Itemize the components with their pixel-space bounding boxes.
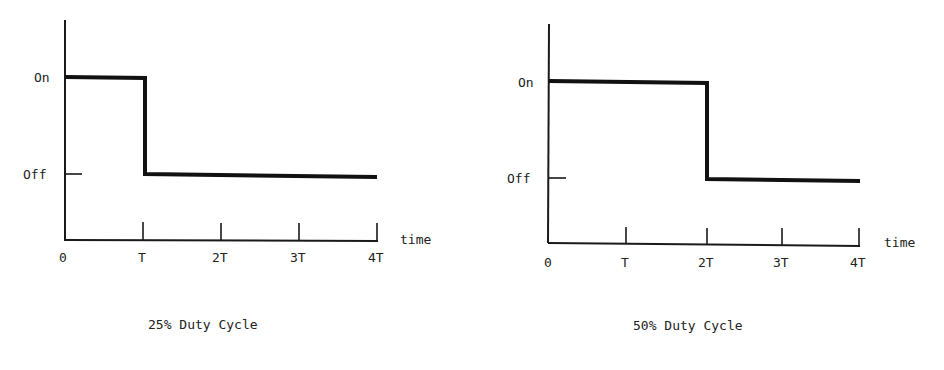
x-axis-title: time	[884, 235, 915, 250]
x-tick-label-4T: 4T	[850, 255, 866, 270]
x-tick-label-2T: 2T	[212, 250, 228, 265]
y-label-off: Off	[23, 167, 46, 182]
chart-50-percent-duty-cycle: On Off 0 T 2T 3T 4T time 50% Duty Cycle	[472, 0, 944, 370]
x-tick-label-T: T	[621, 255, 629, 270]
x-axis	[548, 243, 860, 246]
x-tick-label-4T: 4T	[368, 250, 384, 265]
x-tick-label-2T: 2T	[698, 255, 714, 270]
signal-step-line	[65, 77, 377, 177]
plot-area: On Off 0 T 2T 3T 4T time	[0, 0, 472, 370]
x-tick-label-T: T	[138, 250, 146, 265]
x-tick-label-0: 0	[59, 250, 67, 265]
x-tick-label-3T: 3T	[290, 250, 306, 265]
x-tick-label-0: 0	[544, 255, 552, 270]
chart-caption: 25% Duty Cycle	[148, 317, 258, 332]
y-label-off: Off	[507, 171, 530, 186]
x-axis	[64, 240, 378, 241]
x-tick-label-3T: 3T	[773, 255, 789, 270]
y-label-on: On	[518, 75, 534, 90]
y-label-on: On	[34, 70, 50, 85]
x-axis-title: time	[400, 232, 431, 247]
chart-25-percent-duty-cycle: On Off 0 T 2T 3T 4T time 25% Duty Cycle	[0, 0, 472, 370]
y-axis	[548, 24, 549, 243]
chart-caption: 50% Duty Cycle	[633, 318, 743, 333]
signal-step-line	[549, 81, 860, 181]
plot-area: On Off 0 T 2T 3T 4T time	[472, 0, 944, 370]
